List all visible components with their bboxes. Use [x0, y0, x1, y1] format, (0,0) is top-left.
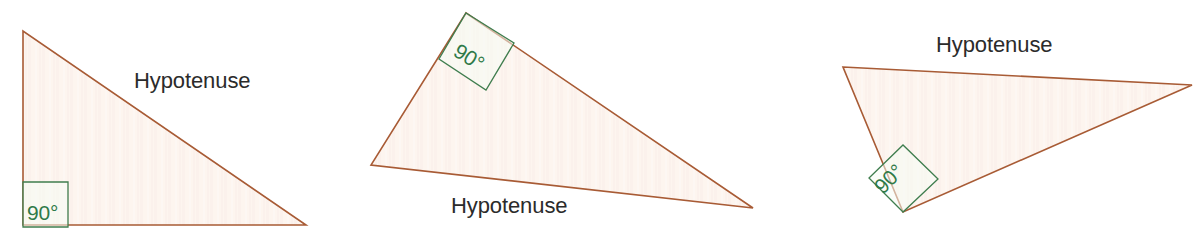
triangle-3: 90°	[843, 67, 1192, 212]
triangle-1: 90°	[23, 31, 306, 227]
triangle-2: 90°	[371, 13, 753, 208]
triangle-figure: 90° 90° 90° Hypotenuse Hypotenuse Hypote…	[0, 0, 1200, 242]
triangle-1-hypotenuse-label: Hypotenuse	[134, 69, 250, 93]
triangle-2-shape	[371, 13, 753, 208]
triangle-1-angle-label: 90°	[27, 201, 58, 224]
triangle-2-hypotenuse-label: Hypotenuse	[451, 194, 567, 218]
triangle-3-hypotenuse-label: Hypotenuse	[936, 33, 1052, 57]
